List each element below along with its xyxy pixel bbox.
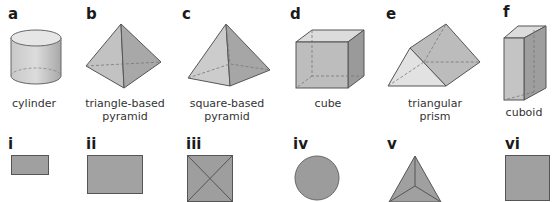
caption-cuboid: cuboid (496, 106, 552, 119)
label-ii: ii (86, 137, 96, 152)
caption-square-based-pyramid-line1: square-based (184, 97, 270, 110)
triangle-based-pyramid-icon (84, 24, 164, 90)
label-i: i (8, 137, 13, 152)
label-v: v (387, 137, 397, 152)
label-f: f (503, 5, 510, 20)
cube-icon (294, 28, 366, 90)
rectangle-icon (87, 155, 144, 195)
caption-square-based-pyramid-line2: pyramid (184, 110, 270, 123)
label-iii: iii (186, 137, 201, 152)
caption-triangular-prism-line1: triangular (400, 97, 470, 110)
caption-triangle-based-pyramid-line2: pyramid (80, 110, 170, 123)
triangle-with-center-lines-icon (389, 156, 441, 202)
label-vi: vi (505, 137, 520, 152)
caption-triangular-prism-line2: prism (400, 110, 470, 123)
small-rectangle-icon (11, 155, 49, 176)
caption-cube: cube (300, 97, 356, 110)
label-d: d (290, 7, 301, 22)
square-icon (505, 155, 550, 201)
label-c: c (182, 7, 191, 22)
square-based-pyramid-icon (186, 24, 272, 90)
label-e: e (386, 7, 396, 22)
triangular-prism-icon (388, 22, 480, 88)
circle-icon (294, 155, 340, 201)
caption-cylinder: cylinder (6, 97, 62, 110)
cuboid-icon (504, 24, 548, 100)
label-b: b (86, 7, 97, 22)
caption-triangle-based-pyramid-line1: triangle-based (80, 97, 170, 110)
label-a: a (8, 7, 18, 22)
cylinder-icon (8, 28, 64, 88)
square-with-diagonals-icon (187, 155, 233, 202)
label-iv: iv (293, 137, 308, 152)
